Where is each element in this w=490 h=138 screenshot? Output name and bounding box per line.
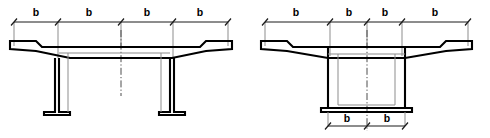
drawing-canvas: b b b b — [0, 0, 490, 138]
right-girder-stem — [159, 58, 185, 115]
dim-label-b-2: b — [86, 6, 92, 18]
interior-construction-lines — [59, 53, 170, 112]
dim-label-bottom-b-1: b — [344, 112, 350, 124]
twin-tee-girder-figure: b b b b — [0, 0, 245, 138]
dim-label-b-1: b — [293, 6, 299, 18]
dim-label-b-3: b — [382, 6, 388, 18]
dim-label-bottom-b-2: b — [384, 112, 390, 124]
left-girder-stem — [44, 58, 70, 115]
dim-label-b-4: b — [432, 6, 438, 18]
dim-label-b-1: b — [33, 6, 39, 18]
dim-label-b-3: b — [144, 6, 150, 18]
box-girder-figure: b b b b b b — [245, 0, 490, 138]
dim-label-b-4: b — [197, 6, 203, 18]
extension-lines — [265, 22, 468, 56]
dim-label-b-2: b — [346, 6, 352, 18]
